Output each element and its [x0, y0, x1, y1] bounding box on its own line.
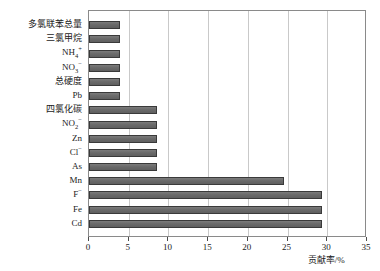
x-axis-title: 贡献率/%: [308, 253, 345, 266]
bar-row: [89, 89, 120, 103]
bar-14: [89, 206, 322, 214]
bar-8: [89, 121, 157, 129]
label-superscript: +: [78, 45, 82, 52]
x-tick-label-20: 20: [242, 242, 251, 252]
y-axis-tick-label: Fe: [73, 202, 82, 216]
bar-6: [89, 92, 120, 100]
y-axis-tick-label: Cd: [71, 216, 82, 230]
bar-2: [89, 35, 120, 43]
bar-row: [89, 61, 120, 75]
y-axis-tick-label: F−: [73, 187, 82, 201]
y-axis-tick-label: NO3−: [62, 60, 82, 74]
bar-row: [89, 117, 157, 131]
bar-1: [89, 21, 120, 29]
x-tick-mark-5: [128, 237, 129, 241]
contribution-rate-bar-chart: 多氯联苯总量三氯甲烷NH4+NO3−总硬度Pb四氯化碳NO2−ZnCl−AsMn…: [0, 0, 380, 271]
bar-10: [89, 149, 157, 157]
x-tick-mark-35: [366, 237, 367, 241]
y-axis-tick-label: NO2−: [62, 116, 82, 130]
y-axis-tick-label: As: [72, 159, 82, 173]
label-subscript: 2: [75, 123, 78, 130]
x-tick-label-5: 5: [125, 242, 130, 252]
label-subscript: 4: [75, 52, 78, 59]
bar-7: [89, 106, 157, 114]
x-tick-mark-15: [207, 237, 208, 241]
x-tick-label-25: 25: [282, 242, 291, 252]
bar-row: [89, 146, 157, 160]
bar-15: [89, 220, 322, 228]
y-axis-tick-label: Mn: [69, 173, 82, 187]
x-tick-label-30: 30: [322, 242, 331, 252]
label-subscript: 3: [75, 66, 78, 73]
x-tick-mark-30: [326, 237, 327, 241]
bar-5: [89, 78, 120, 86]
bar-11: [89, 163, 157, 171]
bar-row: [89, 217, 322, 231]
bar-4: [89, 64, 120, 72]
y-axis-tick-label: 总硬度: [55, 74, 82, 88]
bar-row: [89, 46, 120, 60]
x-tick-mark-25: [287, 237, 288, 241]
x-tick-mark-20: [247, 237, 248, 241]
bar-row: [89, 18, 120, 32]
plot-area: [88, 10, 366, 237]
bar-row: [89, 132, 157, 146]
y-axis-tick-label: NH4+: [62, 45, 82, 59]
label-superscript: −: [78, 116, 82, 123]
label-superscript: −: [78, 145, 82, 152]
x-tick-mark-0: [88, 237, 89, 241]
y-axis-tick-label: Pb: [72, 88, 82, 102]
y-axis-tick-label: 多氯联苯总量: [28, 17, 82, 31]
bar-9: [89, 135, 157, 143]
bar-row: [89, 32, 120, 46]
bar-row: [89, 160, 157, 174]
y-axis-tick-label: Cl−: [70, 145, 82, 159]
x-tick-label-15: 15: [203, 242, 212, 252]
label-superscript: −: [78, 187, 82, 194]
bar-row: [89, 103, 157, 117]
bar-row: [89, 203, 322, 217]
label-superscript: −: [78, 60, 82, 67]
x-tick-mark-10: [167, 237, 168, 241]
x-tick-label-35: 35: [362, 242, 371, 252]
bar-row: [89, 188, 322, 202]
y-axis-tick-label: 三氯甲烷: [46, 31, 82, 45]
bar-12: [89, 177, 284, 185]
x-tick-label-10: 10: [163, 242, 172, 252]
bar-13: [89, 191, 322, 199]
y-axis-tick-label: 四氯化碳: [46, 102, 82, 116]
bar-row: [89, 75, 120, 89]
y-axis-category-labels: 多氯联苯总量三氯甲烷NH4+NO3−总硬度Pb四氯化碳NO2−ZnCl−AsMn…: [0, 10, 86, 237]
y-axis-tick-label: Zn: [72, 131, 82, 145]
bar-3: [89, 50, 120, 58]
x-tick-label-0: 0: [86, 242, 91, 252]
bar-series: [89, 11, 365, 236]
bar-row: [89, 174, 284, 188]
